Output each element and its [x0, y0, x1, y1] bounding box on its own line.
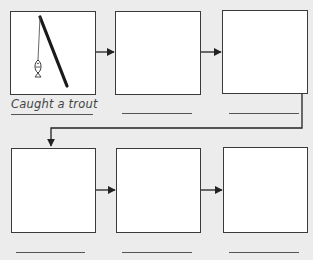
box-5	[116, 148, 201, 233]
caption-line-1	[11, 114, 93, 115]
caption-line-3	[229, 113, 299, 114]
box-6	[223, 147, 308, 233]
box-1	[10, 11, 96, 95]
box-2	[115, 11, 201, 95]
caption-box-1: Caught a trout	[11, 97, 98, 111]
caption-line-5	[122, 252, 192, 253]
box-4	[11, 148, 96, 233]
caption-line-4	[16, 252, 85, 253]
box-3	[222, 10, 308, 94]
sequence-chart: Caught a trout	[0, 0, 313, 260]
caption-line-6	[229, 252, 299, 253]
caption-line-2	[122, 113, 192, 114]
